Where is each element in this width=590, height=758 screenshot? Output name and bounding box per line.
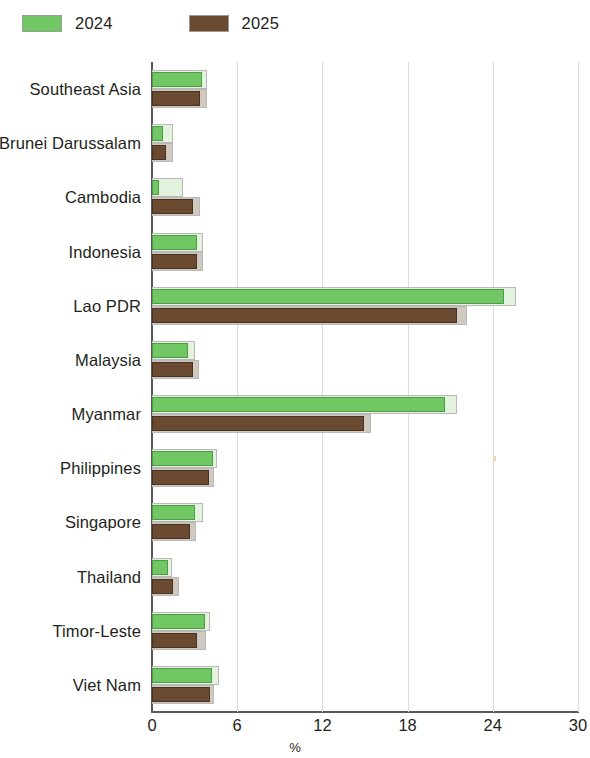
legend-swatch-2025 — [189, 15, 229, 32]
category-label: Indonesia — [69, 242, 141, 261]
bar-2024[interactable] — [152, 668, 212, 683]
bar-pair — [152, 614, 578, 648]
bar-group — [152, 72, 578, 87]
bar-pair — [152, 397, 578, 431]
legend-label-2025: 2025 — [242, 14, 280, 33]
bar-2024[interactable] — [152, 180, 159, 195]
bar-2024[interactable] — [152, 235, 197, 250]
bar-group — [152, 308, 578, 323]
bar-group — [152, 524, 578, 539]
bar-2024[interactable] — [152, 343, 188, 358]
bar-2024[interactable] — [152, 451, 213, 466]
bar-group — [152, 126, 578, 141]
bar-group — [152, 145, 578, 160]
bar-2024[interactable] — [152, 126, 163, 141]
bar-group — [152, 451, 578, 466]
bar-group — [152, 199, 578, 214]
bar-2025[interactable] — [152, 524, 190, 539]
bar-2025[interactable] — [152, 579, 173, 594]
bar-group — [152, 668, 578, 683]
x-axis-label: % — [0, 740, 590, 755]
bar-2025[interactable] — [152, 470, 209, 485]
bar-row: Myanmar — [152, 387, 578, 441]
bar-2025[interactable] — [152, 91, 200, 106]
bar-pair — [152, 126, 578, 160]
bar-row: Malaysia — [152, 333, 578, 387]
bar-group — [152, 470, 578, 485]
bar-row: Cambodia — [152, 170, 578, 224]
bar-2024[interactable] — [152, 397, 445, 412]
bar-2024[interactable] — [152, 289, 504, 304]
bar-group — [152, 579, 578, 594]
bar-row: Southeast Asia — [152, 62, 578, 116]
bar-group — [152, 687, 578, 702]
category-label: Viet Nam — [73, 675, 141, 694]
bar-group — [152, 633, 578, 648]
bar-2025[interactable] — [152, 633, 197, 648]
bar-row: Singapore — [152, 495, 578, 549]
bar-pair — [152, 343, 578, 377]
category-label: Lao PDR — [73, 296, 141, 315]
bar-2025[interactable] — [152, 145, 166, 160]
bar-group — [152, 254, 578, 269]
category-label: Brunei Darussalam — [0, 134, 141, 153]
legend-item-2024: 2024 — [22, 14, 113, 33]
category-label: Philippines — [60, 459, 141, 478]
bar-2024[interactable] — [152, 560, 168, 575]
gridline-30 — [578, 62, 579, 712]
bar-pair — [152, 180, 578, 214]
bar-2025[interactable] — [152, 254, 197, 269]
bar-pair — [152, 289, 578, 323]
bar-group — [152, 505, 578, 520]
legend-item-2025: 2025 — [189, 14, 280, 33]
bar-pair — [152, 235, 578, 269]
bar-row: Indonesia — [152, 225, 578, 279]
scan-artifact-mark — [493, 456, 496, 461]
category-label: Myanmar — [72, 405, 141, 424]
bar-2024[interactable] — [152, 505, 195, 520]
chart-legend: 2024 2025 — [0, 0, 590, 46]
bar-group — [152, 235, 578, 250]
category-label: Thailand — [77, 567, 141, 586]
bar-2025[interactable] — [152, 687, 210, 702]
x-tick-24: 24 — [484, 716, 502, 735]
category-label: Malaysia — [75, 350, 141, 369]
bar-2025[interactable] — [152, 416, 364, 431]
bar-group — [152, 614, 578, 629]
bar-group — [152, 180, 578, 195]
bar-row: Timor-Leste — [152, 604, 578, 658]
category-label: Southeast Asia — [30, 80, 141, 99]
bar-pair — [152, 668, 578, 702]
bar-pair — [152, 505, 578, 539]
bar-group — [152, 362, 578, 377]
bar-2025[interactable] — [152, 199, 193, 214]
bar-2025[interactable] — [152, 308, 457, 323]
bar-pair — [152, 451, 578, 485]
bar-2025[interactable] — [152, 362, 193, 377]
bar-row: Brunei Darussalam — [152, 116, 578, 170]
bar-group — [152, 91, 578, 106]
x-tick-0: 0 — [147, 716, 156, 735]
bar-group — [152, 289, 578, 304]
bar-2024[interactable] — [152, 72, 202, 87]
legend-swatch-2024 — [22, 15, 62, 32]
bar-pair — [152, 560, 578, 594]
bar-group — [152, 343, 578, 358]
x-tick-6: 6 — [233, 716, 242, 735]
bar-group — [152, 397, 578, 412]
bar-row: Philippines — [152, 441, 578, 495]
bar-row: Viet Nam — [152, 658, 578, 712]
bar-chart-plot-area: Southeast AsiaBrunei DarussalamCambodiaI… — [152, 62, 578, 712]
bar-group — [152, 560, 578, 575]
bar-row: Thailand — [152, 550, 578, 604]
x-tick-18: 18 — [398, 716, 416, 735]
x-tick-12: 12 — [313, 716, 331, 735]
bar-group — [152, 416, 578, 431]
bar-pair — [152, 72, 578, 106]
bar-row: Lao PDR — [152, 279, 578, 333]
legend-label-2024: 2024 — [75, 14, 113, 33]
x-tick-30: 30 — [569, 716, 587, 735]
bar-2024[interactable] — [152, 614, 205, 629]
category-label: Singapore — [65, 513, 141, 532]
category-label: Cambodia — [65, 188, 141, 207]
